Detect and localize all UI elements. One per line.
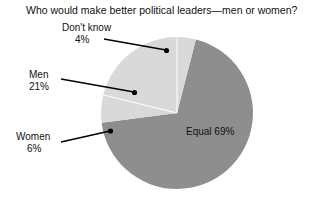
leader-dot-dont-know	[164, 48, 169, 53]
callout-women-percent: 6%	[27, 143, 50, 155]
callout-men-percent: 21%	[29, 81, 49, 93]
callout-women: Women 6%	[16, 131, 50, 154]
callout-dont-know-percent: 4%	[75, 34, 111, 46]
leader-line-women	[61, 131, 110, 142]
leader-dot-men	[132, 90, 137, 95]
callout-men-label: Men	[29, 69, 48, 80]
callout-women-label: Women	[16, 131, 50, 142]
slice-label-equal: Equal 69%	[186, 126, 232, 138]
callout-dont-know: Don't know 4%	[62, 22, 111, 45]
leader-dot-women	[108, 128, 113, 133]
pie-chart-figure: Who would make better political leaders—…	[0, 0, 324, 207]
slice-label-equal-text: Equal	[186, 126, 212, 137]
pie-chart-graphic	[0, 0, 324, 207]
callout-men: Men 21%	[29, 69, 49, 92]
callout-dont-know-label: Don't know	[62, 22, 111, 33]
slice-label-equal-percent: 69%	[214, 126, 234, 137]
